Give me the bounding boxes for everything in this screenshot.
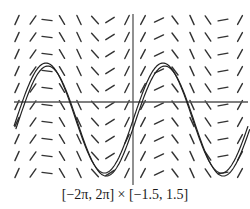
slope-segment xyxy=(106,136,114,141)
slope-segment xyxy=(205,33,211,41)
slope-segment xyxy=(77,16,81,25)
slope-segment xyxy=(172,118,178,126)
slope-segment xyxy=(59,118,64,127)
slope-segment xyxy=(125,50,129,59)
slope-segment xyxy=(125,67,129,76)
slope-segment xyxy=(42,36,52,37)
slope-segment xyxy=(42,172,52,173)
slope-segment xyxy=(218,19,228,21)
slope-segment xyxy=(42,19,52,20)
slope-segment xyxy=(30,152,36,160)
slope-segment xyxy=(155,154,164,158)
slope-segment xyxy=(15,32,19,41)
slope-segment xyxy=(15,83,19,92)
slope-segment xyxy=(106,51,114,56)
slope-segment xyxy=(92,84,99,91)
slope-segment xyxy=(92,16,99,23)
slope-segment xyxy=(238,67,243,76)
slope-segment xyxy=(205,84,211,92)
slope-segment xyxy=(155,171,164,175)
slope-segment xyxy=(218,70,228,72)
slope-segment xyxy=(42,87,52,88)
slope-segment xyxy=(238,16,243,25)
slope-segment xyxy=(125,169,129,178)
slope-segment xyxy=(77,33,81,42)
slope-segment xyxy=(59,169,64,178)
slope-segment xyxy=(77,84,81,93)
slope-segment xyxy=(238,169,243,178)
slope-field-plot xyxy=(0,0,250,190)
slope-segment xyxy=(125,16,129,25)
slope-segment xyxy=(238,50,243,59)
slope-segment xyxy=(106,85,114,90)
slope-segment xyxy=(205,169,211,177)
slope-segment xyxy=(106,34,114,39)
slope-segment xyxy=(92,50,99,57)
slope-segment xyxy=(106,153,114,158)
slope-segment xyxy=(106,17,114,22)
slope-segment xyxy=(15,151,19,160)
slope-segment xyxy=(141,16,146,25)
slope-segment xyxy=(42,121,52,122)
slope-segment xyxy=(30,50,36,58)
slope-segment xyxy=(30,135,36,143)
slope-segment xyxy=(141,135,146,144)
slope-segment xyxy=(155,137,164,141)
slope-segment xyxy=(42,53,52,54)
slope-segment xyxy=(190,151,194,160)
slope-segment xyxy=(155,120,164,124)
slope-segment xyxy=(155,103,164,107)
slope-segment xyxy=(141,50,146,59)
slope-segment xyxy=(205,67,211,75)
slope-segment xyxy=(59,16,64,25)
slope-segment xyxy=(190,15,194,24)
slope-segment xyxy=(218,87,228,89)
slope-segment xyxy=(218,155,228,157)
slope-segment xyxy=(15,134,19,143)
slope-segment xyxy=(190,134,194,143)
slope-segment xyxy=(172,84,178,92)
slope-segment xyxy=(125,152,129,161)
slope-segment xyxy=(172,16,178,24)
slope-segment xyxy=(42,138,52,139)
slope-segment xyxy=(59,67,64,76)
slope-segment xyxy=(155,52,164,56)
slope-segment xyxy=(125,84,129,93)
slope-segment xyxy=(15,49,19,58)
slope-segment xyxy=(172,169,178,177)
slope-segment xyxy=(218,121,228,123)
slope-segment xyxy=(106,102,114,107)
slope-segment xyxy=(125,118,129,127)
slope-segment xyxy=(155,86,164,90)
slope-segment xyxy=(59,33,64,42)
slope-segment xyxy=(205,118,211,126)
slope-segment xyxy=(172,50,178,58)
slope-segment xyxy=(172,33,178,41)
slope-segment xyxy=(141,33,146,42)
slope-segment xyxy=(141,118,146,127)
slope-segment xyxy=(30,33,36,41)
slope-segment xyxy=(59,50,64,59)
slope-segment xyxy=(238,84,243,93)
slope-segment xyxy=(155,35,164,39)
slope-segment xyxy=(77,50,81,59)
slope-segment xyxy=(141,152,146,161)
slope-segment xyxy=(77,67,81,76)
slope-segment xyxy=(77,135,81,144)
slope-segment xyxy=(125,33,129,42)
slope-segment xyxy=(218,36,228,38)
slope-segment xyxy=(190,32,194,41)
slope-segment xyxy=(205,50,211,58)
slope-segment xyxy=(42,70,52,71)
slope-segment xyxy=(15,66,19,75)
slope-segment xyxy=(15,168,19,177)
slope-segment xyxy=(172,135,178,143)
slope-segment xyxy=(205,16,211,24)
slope-segment xyxy=(42,104,52,105)
slope-segment xyxy=(92,135,99,142)
window-caption: [−2π, 2π] × [−1.5, 1.5] xyxy=(0,186,250,204)
slope-segment xyxy=(238,33,243,42)
slope-segment xyxy=(92,118,99,125)
slope-segment xyxy=(205,135,211,143)
slope-segment xyxy=(77,152,81,161)
